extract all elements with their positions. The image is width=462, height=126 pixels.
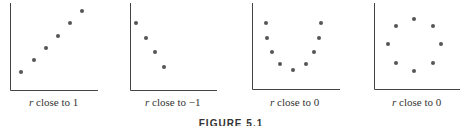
data-point: [144, 36, 148, 40]
data-point: [386, 42, 390, 46]
axes: [375, 3, 461, 90]
axes: [253, 3, 341, 90]
data-point: [394, 24, 398, 28]
data-point: [44, 46, 48, 50]
data-point: [134, 21, 138, 25]
data-point: [394, 61, 398, 65]
data-point: [412, 17, 416, 21]
data-point: [56, 34, 60, 38]
panel-1-label: r close to 1: [29, 96, 78, 108]
scatter-panel-1: [11, 3, 99, 91]
data-point: [312, 50, 316, 54]
data-point: [439, 42, 443, 46]
data-point: [68, 21, 72, 25]
data-point: [265, 36, 269, 40]
data-point: [431, 24, 435, 28]
panel-2-label: r close to −1: [145, 96, 200, 108]
data-point: [153, 50, 157, 54]
axes: [11, 3, 99, 91]
data-point: [32, 58, 36, 62]
data-point: [162, 65, 166, 69]
scatter-panel-2: [131, 3, 218, 91]
data-point: [317, 36, 321, 40]
data-point: [412, 69, 416, 73]
data-point: [264, 21, 268, 25]
data-point: [304, 62, 308, 66]
panel-3-label: r close to 0: [270, 96, 319, 108]
data-point: [278, 62, 282, 66]
scatter-panel-4: [375, 3, 461, 90]
data-point: [291, 68, 295, 72]
data-point: [431, 61, 435, 65]
data-point: [270, 50, 274, 54]
data-point: [19, 70, 23, 74]
scatter-panel-3: [253, 3, 341, 90]
panel-4-label: r close to 0: [392, 96, 441, 108]
figure-caption: FIGURE 5.1: [0, 118, 462, 126]
data-point: [80, 9, 84, 13]
axes: [131, 3, 218, 91]
data-point: [319, 21, 323, 25]
